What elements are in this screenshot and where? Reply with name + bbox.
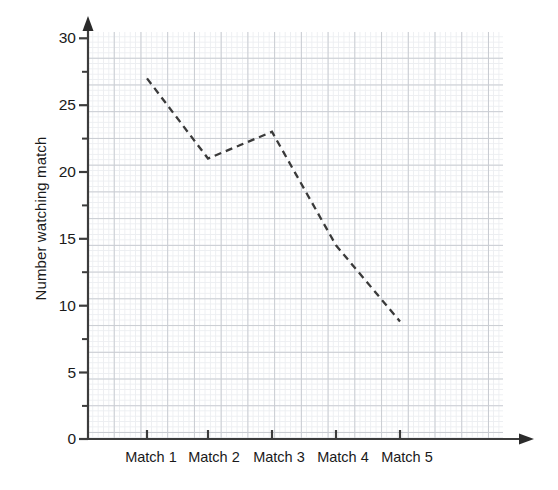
x-axis — [88, 434, 534, 445]
y-tick-label-0: 0 — [48, 431, 76, 447]
x-category-ticks — [147, 430, 400, 439]
data-series-line — [147, 78, 400, 321]
y-tick-label-30: 30 — [48, 30, 76, 46]
y-axis-arrow-icon — [83, 16, 94, 31]
y-tick-label-5: 5 — [48, 365, 76, 381]
x-tick-label-match-2: Match 2 — [188, 450, 240, 465]
y-tick-label-15: 15 — [48, 231, 76, 247]
x-tick-label-match-5: Match 5 — [381, 450, 433, 465]
y-tick-label-20: 20 — [48, 164, 76, 180]
y-tick-label-25: 25 — [48, 97, 76, 113]
line-chart: Number watching match 30 25 20 15 10 5 0… — [0, 0, 558, 490]
x-axis-arrow-icon — [519, 434, 534, 445]
y-axis-title: Number watching match — [32, 109, 49, 329]
x-tick-label-match-3: Match 3 — [253, 450, 305, 465]
x-tick-label-match-1: Match 1 — [125, 450, 177, 465]
x-tick-label-match-4: Match 4 — [317, 450, 369, 465]
y-axis — [83, 16, 94, 439]
plot-area — [0, 0, 558, 490]
y-tick-label-10: 10 — [48, 298, 76, 314]
y-major-ticks — [79, 38, 88, 439]
